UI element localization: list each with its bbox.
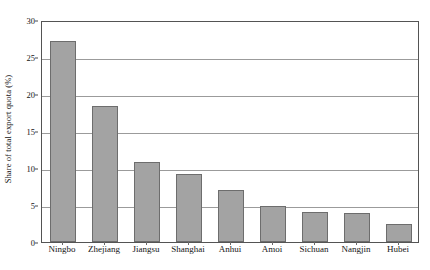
x-axis-tick-label: Amoi bbox=[262, 245, 283, 255]
plot-area bbox=[41, 21, 419, 243]
x-axis-tick-label: Anhui bbox=[219, 245, 242, 255]
x-axis-tick-mark bbox=[314, 242, 315, 245]
y-axis-tick-label: 15 bbox=[27, 128, 36, 137]
x-axis-tick-mark bbox=[356, 242, 357, 245]
bar-anhui bbox=[218, 190, 244, 242]
bar-chart: Share of total export quota (%) 05101520… bbox=[0, 0, 430, 270]
y-axis-title: Share of total export quota (%) bbox=[0, 0, 16, 258]
bar-amoi bbox=[260, 206, 286, 242]
x-axis-tick-label: Zhejiang bbox=[88, 245, 120, 255]
y-axis-tick-label: 25 bbox=[27, 54, 36, 63]
y-axis-tick-labels: 051015202530 bbox=[16, 0, 38, 270]
bars-group bbox=[42, 22, 418, 242]
x-axis-tick-label: Nangjin bbox=[342, 245, 371, 255]
y-axis-tick-mark bbox=[35, 169, 38, 170]
y-axis-tick-mark bbox=[35, 58, 38, 59]
bar-jiangsu bbox=[134, 162, 160, 242]
y-axis-tick-mark bbox=[35, 21, 38, 22]
bar-nangjin bbox=[344, 213, 370, 242]
y-axis-tick-label: 20 bbox=[27, 91, 36, 100]
x-axis-tick-mark bbox=[272, 242, 273, 245]
x-axis-tick-label: Ningbo bbox=[49, 245, 76, 255]
bar-zhejiang bbox=[92, 106, 118, 242]
x-axis-tick-mark bbox=[62, 242, 63, 245]
y-axis-title-text: Share of total export quota (%) bbox=[3, 75, 13, 184]
y-axis-tick-mark bbox=[35, 243, 38, 244]
x-axis-tick-mark bbox=[146, 242, 147, 245]
y-axis-tick-mark bbox=[35, 95, 38, 96]
x-axis-tick-label: Hubei bbox=[387, 245, 409, 255]
bar-sichuan bbox=[302, 212, 328, 242]
x-axis-tick-labels: NingboZhejiangJiangsuShanghaiAnhuiAmoiSi… bbox=[41, 245, 419, 267]
x-axis-tick-label: Shanghai bbox=[171, 245, 205, 255]
bar-ningbo bbox=[50, 41, 76, 242]
bar-hubei bbox=[386, 224, 412, 242]
x-axis-tick-label: Jiangsu bbox=[133, 245, 160, 255]
x-axis-tick-mark bbox=[104, 242, 105, 245]
y-axis-tick-label: 30 bbox=[27, 17, 36, 26]
y-axis-tick-mark bbox=[35, 206, 38, 207]
bar-shanghai bbox=[176, 174, 202, 242]
x-axis-tick-mark bbox=[188, 242, 189, 245]
x-axis-tick-label: Sichuan bbox=[300, 245, 329, 255]
x-axis-tick-mark bbox=[230, 242, 231, 245]
y-axis-tick-mark bbox=[35, 132, 38, 133]
x-axis-tick-mark bbox=[398, 242, 399, 245]
y-axis-tick-label: 10 bbox=[27, 165, 36, 174]
